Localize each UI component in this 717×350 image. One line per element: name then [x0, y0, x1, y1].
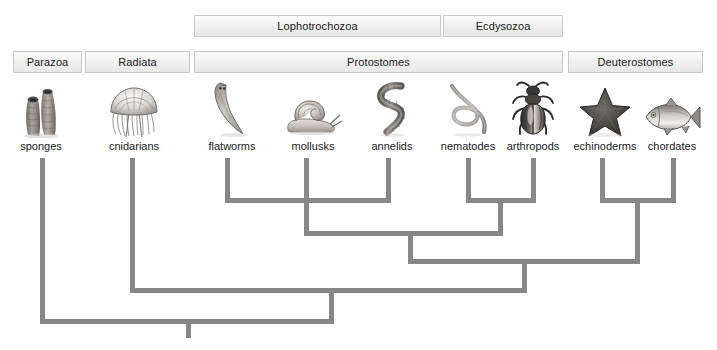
branch-tip-arthropods [531, 158, 536, 203]
branch-tip-annelids [386, 158, 391, 203]
cladogram-branches [0, 0, 717, 350]
cladogram-figure: Lophotrochozoa Ecdysozoa Parazoa Radiata… [0, 0, 717, 350]
branch-tip-flatworms [225, 158, 230, 203]
branch-tip-chordates [671, 158, 676, 203]
branch-stem-eumetazoa [329, 288, 334, 322]
branch-stem-ecdysozoa [498, 198, 503, 234]
branch-stem-bilateria [522, 259, 527, 291]
branch-tip-echinoderms [600, 158, 605, 203]
branch-tip-nematodes [466, 158, 471, 203]
branch-stem-lophotrochozoa [304, 198, 309, 234]
branch-tip-cnidarians [130, 158, 135, 293]
branch-tip-mollusks [304, 158, 309, 203]
node-bar-protostomes [304, 231, 503, 236]
branch-stem-deuterostomes [635, 198, 640, 262]
branch-tip-sponges [40, 158, 45, 323]
branch-root-stem [186, 319, 191, 338]
branch-stem-protostomes [408, 231, 413, 262]
